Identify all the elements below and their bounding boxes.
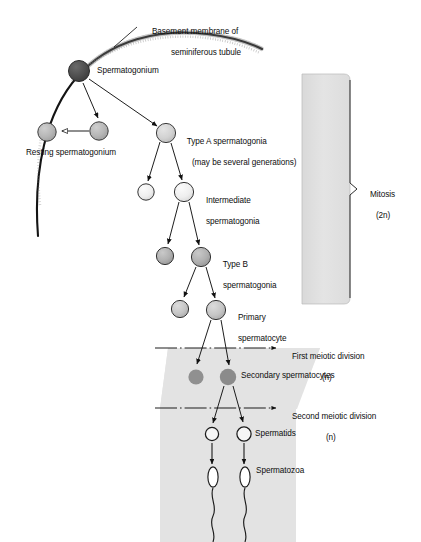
arrow-intermediate-to-typeb-left	[168, 202, 179, 244]
spermatogenesis-diagram: Basement membrane of seminiferous tubule…	[0, 0, 421, 542]
cell-spermatid-left	[205, 427, 218, 440]
diagram-canvas	[0, 0, 421, 542]
basement-membrane-line2: seminiferous tubule	[152, 48, 241, 58]
mitosis-line1: Mitosis	[370, 190, 395, 199]
arrow-typea-to-intermediate-left	[148, 142, 160, 181]
cell-primary-spermatocyte-left	[171, 300, 188, 317]
second-meiotic-line2: (n)	[292, 433, 336, 443]
arrow-spermatogonium-to-resting	[83, 83, 98, 118]
second-meiotic-line1: Second meiotic division	[292, 412, 376, 421]
cell-spermatogonium	[69, 61, 90, 82]
cell-type-b-spermatogonia-left	[156, 247, 173, 264]
cell-type-a-spermatogonia	[156, 123, 175, 142]
type-b-line2: spermatogonia	[223, 281, 277, 290]
type-a-line2: (may be several generations)	[187, 158, 297, 168]
intermediate-line1: Intermediate	[206, 196, 251, 205]
type-b-line1: Type B	[223, 260, 248, 269]
label-basement-membrane: Basement membrane of seminiferous tubule	[143, 17, 241, 69]
type-a-line1: Type A spermatogonia	[187, 137, 267, 146]
cell-secondary-spermatocyte-right	[220, 369, 236, 385]
cell-intermediate-spermatogonia-left	[138, 184, 154, 200]
cell-resting-spermatogonium	[38, 123, 56, 141]
label-intermediate-spermatogonia: Intermediate spermatogonia	[197, 186, 259, 238]
primary-line2: spermatocyte	[238, 334, 287, 343]
label-spermatids: Spermatids	[255, 429, 296, 439]
label-type-a-spermatogonia: Type A spermatogonia (may be several gen…	[178, 127, 297, 179]
label-primary-spermatocyte: Primary spermatocyte	[229, 303, 286, 355]
label-resting-spermatogonium: Resting spermatogonium	[26, 148, 116, 158]
cell-primary-spermatocyte-right	[206, 300, 225, 319]
mitosis-bracket	[302, 74, 357, 304]
first-meiotic-line1: First meiotic division	[292, 352, 365, 361]
label-type-b-spermatogonia: Type B spermatogonia	[214, 250, 276, 302]
cell-type-b-spermatogonia-right	[191, 247, 210, 266]
label-secondary-spermatocytes: Secondary spermatocytes	[241, 371, 335, 381]
cell-intermediate-spermatogonia-right	[174, 182, 193, 201]
cell-resting-spermatogonium-sibling	[90, 122, 108, 140]
label-second-meiotic-division: Second meiotic division (n)	[283, 402, 376, 454]
label-first-meiotic-division: First meiotic division (n)	[283, 342, 365, 394]
primary-line1: Primary	[238, 313, 266, 322]
cell-secondary-spermatocyte-left	[188, 369, 203, 384]
label-mitosis: Mitosis (2n)	[361, 180, 395, 232]
intermediate-line2: spermatogonia	[206, 217, 260, 226]
basement-membrane-line1: Basement membrane of	[152, 27, 238, 36]
arrow-typeb-to-primary-left	[184, 267, 196, 297]
mitosis-line2: (2n)	[370, 211, 390, 221]
label-spermatogonium: Spermatogonium	[97, 66, 159, 76]
label-spermatozoa: Spermatozoa	[256, 466, 304, 476]
arrow-spermatogonium-to-typea	[89, 79, 157, 126]
cell-spermatid-right	[237, 427, 251, 441]
